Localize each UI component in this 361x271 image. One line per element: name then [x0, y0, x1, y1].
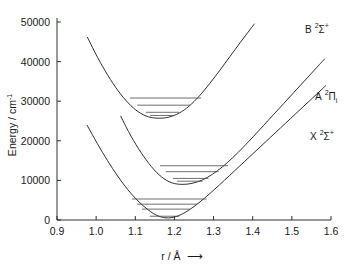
- svg-text:A2Πi: A2Πi: [315, 89, 338, 104]
- series-label-x-main: X: [310, 131, 317, 142]
- curve-B-state: [88, 24, 255, 118]
- series-label-a-subscript: i: [336, 97, 338, 104]
- chart-canvas: 0.91.01.11.21.31.41.51.6 010000200003000…: [0, 0, 361, 271]
- series-label-b-charge: +: [325, 22, 329, 29]
- x-tick-label-1.1: 1.1: [128, 225, 143, 237]
- y-axis-title-text: Energy / cm: [6, 100, 18, 156]
- x-tick-label-0.9: 0.9: [50, 225, 65, 237]
- x-tick-label-1.5: 1.5: [285, 225, 300, 237]
- x-axis-title: r / Å⟶: [161, 250, 202, 262]
- y-axis-ticks: [57, 22, 61, 220]
- y-tick-label-20000: 20000: [21, 135, 50, 147]
- series-label-x-charge: +: [330, 129, 334, 136]
- x-tick-label-1.2: 1.2: [167, 225, 182, 237]
- y-tick-label-30000: 30000: [21, 95, 50, 107]
- potential-energy-curve-figure: 0.91.01.11.21.31.41.51.6 010000200003000…: [0, 0, 361, 271]
- y-axis-title: Energy / cm-1: [6, 94, 18, 156]
- x-tick-label-1.0: 1.0: [89, 225, 104, 237]
- curve-X-state: [87, 86, 325, 218]
- y-tick-label-0: 0: [44, 214, 50, 226]
- series-label-a-term: Π: [329, 91, 336, 102]
- y-tick-label-40000: 40000: [21, 56, 50, 68]
- series-label-b-main: B: [305, 24, 312, 35]
- series-label-a: A2Πi: [315, 89, 338, 104]
- x-tick-label-1.3: 1.3: [206, 225, 221, 237]
- x-tick-label-1.6: 1.6: [324, 225, 339, 237]
- svg-text:Energy / cm-1: Energy / cm-1: [6, 94, 18, 156]
- x-axis-arrow-icon: ⟶: [187, 250, 203, 262]
- svg-text:B2Σ+: B2Σ+: [305, 22, 329, 35]
- potential-curves-group: [87, 24, 325, 218]
- y-axis-tick-labels: 01000020000300004000050000: [21, 16, 50, 226]
- series-label-b: B2Σ+: [305, 22, 329, 35]
- x-tick-label-1.4: 1.4: [245, 225, 260, 237]
- x-axis-ticks: [57, 216, 331, 220]
- x-axis-title-text: r / Å: [161, 250, 180, 262]
- x-axis-tick-labels: 0.91.01.11.21.31.41.51.6: [50, 225, 339, 237]
- y-tick-label-50000: 50000: [21, 16, 50, 28]
- y-tick-label-10000: 10000: [21, 174, 50, 186]
- svg-text:r / Å⟶: r / Å⟶: [161, 250, 202, 262]
- svg-text:X2Σ+: X2Σ+: [310, 129, 334, 142]
- series-label-x: X2Σ+: [310, 129, 334, 142]
- y-axis-title-exponent: -1: [6, 94, 13, 100]
- series-label-a-main: A: [315, 91, 322, 102]
